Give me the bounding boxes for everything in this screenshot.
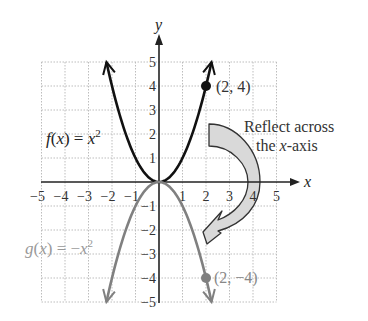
x-axis-label: x [303, 173, 311, 190]
x-tick-label: −2 [101, 189, 116, 204]
x-axis-arrow-icon [290, 178, 300, 186]
point-f-2-4 [201, 81, 211, 91]
g-function-label: g(x) = −x2 [25, 237, 93, 258]
point-f-label: (2, 4) [216, 78, 251, 96]
y-tick-label: −5 [141, 295, 156, 310]
y-tick-label: −3 [141, 247, 156, 262]
y-tick-label: −4 [141, 271, 156, 286]
x-tick-label: −3 [77, 189, 92, 204]
point-g-2-neg4 [201, 273, 211, 283]
y-tick-label: −1 [141, 199, 156, 214]
y-axis-label: y [153, 16, 163, 34]
y-tick-label: 3 [149, 103, 156, 118]
x-tick-label: 4 [250, 189, 257, 204]
y-tick-label: 5 [149, 55, 156, 70]
x-tick-label: 5 [273, 189, 280, 204]
x-tick-label: 3 [226, 189, 233, 204]
x-tick-label: −5 [30, 189, 45, 204]
x-tick-label: −4 [54, 189, 69, 204]
y-tick-label: −2 [141, 223, 156, 238]
y-axis-arrow-icon [155, 34, 163, 45]
reflection-chart: x y −5−4−3−2−112345 54321−1−2−3−4−5 (2, … [0, 0, 368, 321]
y-tick-label: 1 [149, 151, 156, 166]
point-g-label: (2, −4) [214, 269, 258, 287]
reflect-arrow-icon [203, 124, 260, 244]
f-function-label: f(x) = x2 [46, 127, 101, 148]
x-tick-label: 2 [203, 189, 210, 204]
y-tick-label: 4 [149, 79, 156, 94]
reflect-annotation-line2: the x-axis [256, 137, 318, 154]
y-tick-label: 2 [149, 127, 156, 142]
reflect-annotation-line1: Reflect across [244, 118, 334, 135]
